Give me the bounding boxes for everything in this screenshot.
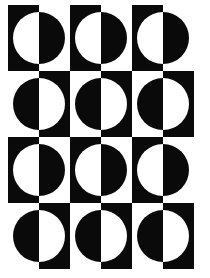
pattern-cell xyxy=(70,203,132,269)
pattern-cell xyxy=(70,137,132,203)
pattern-cell xyxy=(70,5,132,71)
pattern-cell xyxy=(132,71,194,137)
pattern-cell xyxy=(132,137,194,203)
op-art-pattern xyxy=(0,0,210,278)
pattern-cell xyxy=(8,71,70,137)
pattern-cell xyxy=(132,203,194,269)
cells-layer xyxy=(8,5,194,269)
pattern-cell xyxy=(8,203,70,269)
pattern-cell xyxy=(8,137,70,203)
pattern-cell xyxy=(70,71,132,137)
artwork-canvas xyxy=(0,0,210,278)
pattern-cell xyxy=(8,5,70,71)
pattern-cell xyxy=(132,5,194,71)
